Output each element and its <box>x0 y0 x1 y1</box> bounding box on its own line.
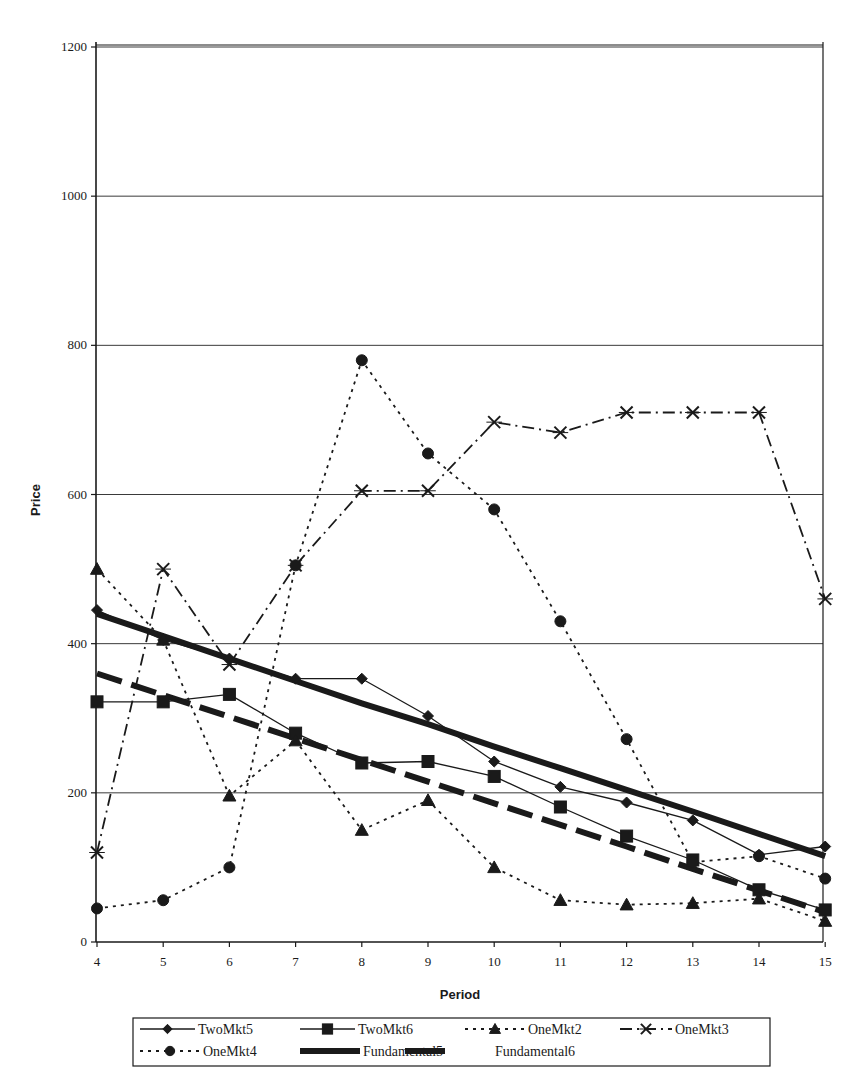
legend-label: OneMkt4 <box>203 1044 257 1059</box>
triangle-marker <box>620 898 633 910</box>
series-onemkt2 <box>91 563 832 927</box>
series-line <box>97 360 825 908</box>
legend-label: Fundamental6 <box>495 1044 575 1059</box>
circle-marker <box>687 857 698 868</box>
x-tick-label: 14 <box>753 954 767 969</box>
series-onemkt4 <box>92 355 831 914</box>
x-marker <box>155 563 171 575</box>
series-twomkt6 <box>91 688 831 916</box>
triangle-marker <box>422 794 435 806</box>
x-tick-label: 13 <box>686 954 699 969</box>
square-marker <box>554 801 566 813</box>
x-marker <box>486 416 502 428</box>
diamond-marker <box>820 841 831 852</box>
line-chart: 020040060080010001200 456789101112131415… <box>0 0 862 1090</box>
circle-marker <box>754 851 765 862</box>
y-axis-ticks: 020040060080010001200 <box>61 39 96 949</box>
square-marker <box>356 757 368 769</box>
x-tick-label: 9 <box>425 954 432 969</box>
diamond-marker <box>489 756 500 767</box>
square-marker <box>157 696 169 708</box>
legend-label: OneMkt3 <box>675 1022 729 1037</box>
triangle-marker <box>91 563 104 575</box>
x-tick-label: 6 <box>226 954 233 969</box>
y-axis-title: Price <box>28 484 43 516</box>
x-marker <box>751 406 767 418</box>
diamond-marker <box>621 797 632 808</box>
y-tick-label: 600 <box>68 487 88 502</box>
y-tick-label: 1200 <box>61 39 87 54</box>
square-marker <box>422 756 434 768</box>
legend-label: TwoMkt5 <box>198 1022 253 1037</box>
series-line <box>97 413 825 853</box>
y-tick-label: 800 <box>68 337 88 352</box>
circle-marker <box>224 862 235 873</box>
circle-marker <box>621 734 632 745</box>
x-marker <box>553 427 569 439</box>
circle-marker <box>555 616 566 627</box>
y-tick-label: 400 <box>68 636 88 651</box>
circle-marker <box>165 1046 174 1055</box>
x-tick-label: 7 <box>292 954 299 969</box>
x-marker <box>685 406 701 418</box>
series-fundamental5 <box>97 614 825 856</box>
circle-marker <box>158 895 169 906</box>
legend: TwoMkt5TwoMkt6OneMkt2OneMkt3OneMkt4Funda… <box>133 1018 770 1066</box>
data-series <box>89 355 833 927</box>
circle-marker <box>820 873 831 884</box>
diamond-marker <box>687 815 698 826</box>
x-marker <box>89 847 105 859</box>
x-tick-label: 15 <box>819 954 832 969</box>
y-tick-label: 200 <box>68 785 88 800</box>
circle-marker <box>356 355 367 366</box>
y-tick-label: 0 <box>81 934 88 949</box>
legend-label: OneMkt2 <box>528 1022 582 1037</box>
plot-frame <box>96 42 823 942</box>
circle-marker <box>290 560 301 571</box>
square-marker <box>223 688 235 700</box>
circle-marker <box>92 903 103 914</box>
x-tick-label: 11 <box>554 954 567 969</box>
x-marker <box>619 406 635 418</box>
triangle-marker <box>554 894 567 906</box>
diamond-marker <box>356 673 367 684</box>
x-tick-label: 8 <box>359 954 366 969</box>
x-tick-label: 12 <box>620 954 633 969</box>
x-tick-label: 10 <box>488 954 501 969</box>
series-line <box>97 569 825 921</box>
x-axis-ticks: 456789101112131415 <box>94 942 832 969</box>
x-tick-label: 4 <box>94 954 101 969</box>
y-tick-label: 1000 <box>61 188 87 203</box>
circle-marker <box>423 448 434 459</box>
circle-marker <box>489 504 500 515</box>
diamond-marker <box>555 781 566 792</box>
square-marker <box>322 1024 332 1034</box>
legend-label: TwoMkt6 <box>358 1022 413 1037</box>
x-tick-label: 5 <box>160 954 167 969</box>
square-marker <box>488 770 500 782</box>
x-marker <box>817 593 833 605</box>
square-marker <box>621 830 633 842</box>
x-axis-title: Period <box>440 987 481 1002</box>
series-line <box>97 614 825 856</box>
gridlines <box>96 47 823 793</box>
square-marker <box>91 696 103 708</box>
